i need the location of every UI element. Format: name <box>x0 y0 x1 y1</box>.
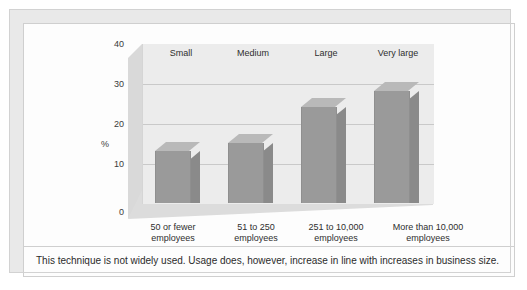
x-axis-label-medium: 51 to 250 employees <box>216 222 296 244</box>
bar-small-front <box>155 151 191 203</box>
x-axis-label-small-line1: 50 or fewer <box>130 222 216 233</box>
plot-area: Small Medium Large Very large <box>128 44 433 219</box>
figure-caption: This technique is not widely used. Usage… <box>36 254 502 268</box>
x-axis-label-medium-line1: 51 to 250 <box>216 222 296 233</box>
category-label-very-large: Very large <box>362 48 434 58</box>
bar-large-front <box>301 107 337 203</box>
x-axis-label-large-line1: 251 to 10,000 <box>292 222 380 233</box>
category-label-medium: Medium <box>217 48 289 58</box>
x-axis-label-large: 251 to 10,000 employees <box>292 222 380 244</box>
bar-chart: 40 30 20 10 0 % <box>24 24 514 246</box>
y-tick-10: 10 <box>94 159 124 169</box>
x-axis-label-very-large-line1: More than 10,000 <box>376 222 480 233</box>
y-tick-30: 30 <box>94 79 124 89</box>
x-axis-label-large-line2: employees <box>292 233 380 244</box>
y-tick-20: 20 <box>94 119 124 129</box>
page-canvas: 40 30 20 10 0 % <box>0 0 527 290</box>
y-tick-40: 40 <box>94 39 124 49</box>
figure-card: 40 30 20 10 0 % <box>23 23 515 277</box>
y-tick-0: 0 <box>94 207 124 217</box>
y-axis-label: % <box>101 139 109 149</box>
x-axis-label-small: 50 or fewer employees <box>130 222 216 244</box>
plot-left-wall <box>128 44 142 219</box>
category-label-large: Large <box>291 48 361 58</box>
caption-divider <box>24 246 514 247</box>
bar-medium-front <box>228 143 264 203</box>
category-label-small: Small <box>147 48 215 58</box>
x-axis-label-small-line2: employees <box>130 233 216 244</box>
x-axis-label-very-large-line2: employees <box>376 233 480 244</box>
figure-outer-frame: 40 30 20 10 0 % <box>9 9 511 273</box>
x-axis-label-medium-line2: employees <box>216 233 296 244</box>
bar-very-large-front <box>374 91 410 203</box>
y-axis-ticks: 40 30 20 10 0 <box>82 44 124 219</box>
x-axis-label-very-large: More than 10,000 employees <box>376 222 480 244</box>
